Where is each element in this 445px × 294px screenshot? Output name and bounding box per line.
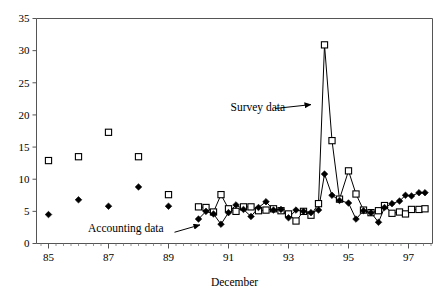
data-point-survey-data <box>195 204 201 210</box>
y-axis-ticks <box>33 19 37 244</box>
x-tick-label: 89 <box>163 251 175 263</box>
data-point-survey-data <box>396 209 402 215</box>
data-point-survey-data <box>402 211 408 217</box>
data-point-accounting-data <box>329 192 336 199</box>
survey-data-annotation-text: Survey data <box>231 101 286 114</box>
y-tick-label: 5 <box>24 205 30 217</box>
data-point-survey-data <box>248 204 254 210</box>
y-tick-label: 0 <box>24 237 30 249</box>
data-point-accounting-data <box>408 193 415 200</box>
data-point-accounting-data <box>165 203 172 210</box>
data-point-survey-data <box>422 206 428 212</box>
data-point-accounting-data <box>218 221 225 228</box>
data-point-survey-data <box>165 192 171 198</box>
chart-svg: 85878991939597 05101520253035 Survey dat… <box>0 0 445 294</box>
series-lines <box>199 45 426 224</box>
x-tick-label: 85 <box>43 251 55 263</box>
x-tick-label: 93 <box>283 251 295 263</box>
series-line-survey-data <box>199 45 426 221</box>
x-tick-label: 91 <box>223 251 234 263</box>
data-point-accounting-data <box>345 200 352 207</box>
series-markers <box>45 42 428 228</box>
x-axis-ticks <box>41 244 431 249</box>
y-tick-label: 10 <box>19 173 31 185</box>
chart-figure: 85878991939597 05101520253035 Survey dat… <box>0 0 445 294</box>
data-point-survey-data <box>416 206 422 212</box>
y-tick-label: 25 <box>19 77 31 89</box>
data-point-survey-data <box>105 129 111 135</box>
data-point-survey-data <box>408 206 414 212</box>
y-tick-label: 20 <box>19 109 31 121</box>
data-point-survey-data <box>233 208 239 214</box>
chart-annotations: Survey dataAccounting data <box>88 101 311 235</box>
x-axis-tick-labels: 85878991939597 <box>43 251 415 263</box>
data-point-survey-data <box>45 157 51 163</box>
data-point-survey-data <box>321 42 327 48</box>
y-tick-label: 35 <box>19 12 31 24</box>
x-axis-title-text: December <box>211 276 258 288</box>
data-point-accounting-data <box>422 189 429 196</box>
data-point-accounting-data <box>321 171 328 178</box>
x-tick-label: 87 <box>103 251 115 263</box>
data-point-survey-data <box>375 208 381 214</box>
data-point-survey-data <box>218 192 224 198</box>
data-point-accounting-data <box>389 200 396 207</box>
data-point-survey-data <box>263 207 269 213</box>
data-point-survey-data <box>315 201 321 207</box>
accounting-data-annotation-arrow <box>175 225 201 232</box>
data-point-survey-data <box>75 154 81 160</box>
data-point-survey-data <box>293 218 299 224</box>
data-point-survey-data <box>353 191 359 197</box>
data-point-accounting-data <box>75 196 82 203</box>
data-point-survey-data <box>135 154 141 160</box>
data-point-survey-data <box>389 210 395 216</box>
data-point-accounting-data <box>105 203 112 210</box>
accounting-data-annotation-text: Accounting data <box>88 222 164 235</box>
x-axis-title: December <box>211 276 258 288</box>
y-tick-label: 15 <box>19 141 31 153</box>
x-tick-label: 95 <box>343 251 355 263</box>
data-point-survey-data <box>329 138 335 144</box>
data-point-accounting-data <box>135 184 142 191</box>
data-point-survey-data <box>345 168 351 174</box>
data-point-accounting-data <box>45 211 52 218</box>
y-axis-tick-labels: 05101520253035 <box>19 12 31 249</box>
x-tick-label: 97 <box>403 251 415 263</box>
y-tick-label: 30 <box>19 44 31 56</box>
